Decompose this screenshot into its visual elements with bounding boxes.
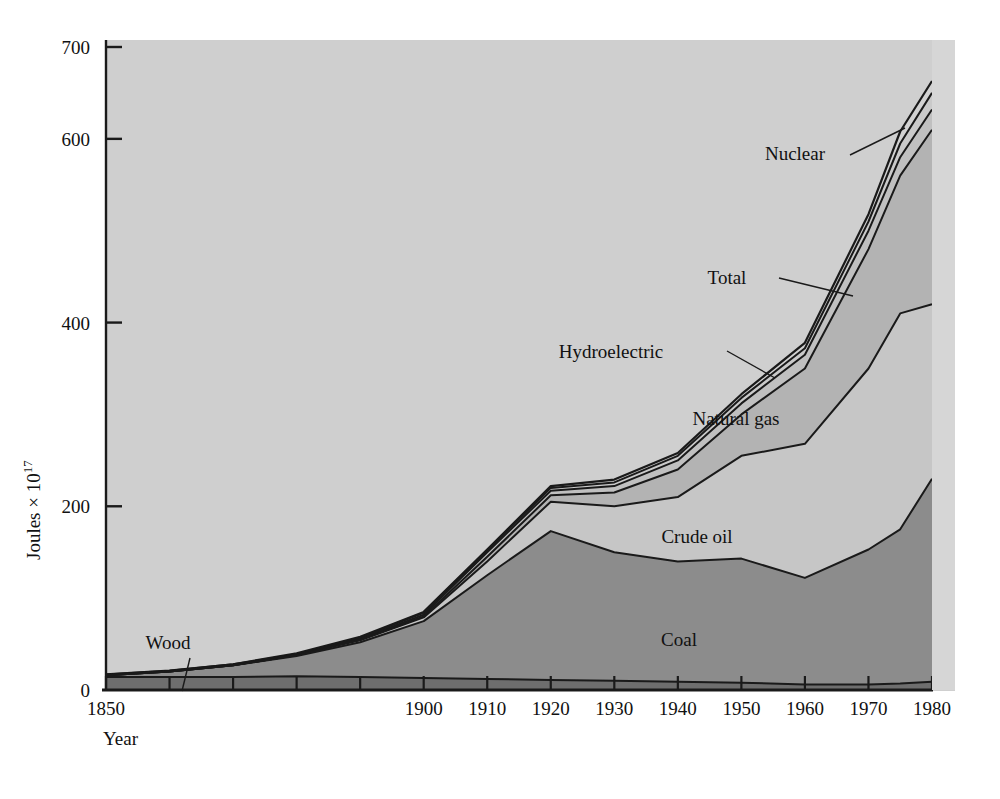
- x-tick-label-1960: 1960: [786, 698, 824, 719]
- x-tick-label-1900: 1900: [405, 698, 443, 719]
- energy-consumption-chart: 0200400600700 18501900191019201930194019…: [0, 0, 1000, 799]
- chart-canvas: 0200400600700 18501900191019201930194019…: [0, 0, 1000, 799]
- annotation-hydroelectric: Hydroelectric: [559, 341, 663, 362]
- x-tick-label-1920: 1920: [532, 698, 570, 719]
- y-axis-title-exponent: 17: [20, 460, 35, 474]
- x-tick-label-1930: 1930: [595, 698, 633, 719]
- annotation-wood: Wood: [146, 632, 191, 653]
- x-tick-label-1850: 1850: [87, 698, 125, 719]
- plot-right-margin: [932, 40, 955, 690]
- x-tick-label-1980: 1980: [913, 698, 951, 719]
- y-axis-title: Joules × 1017: [20, 460, 44, 560]
- annotation-nuclear: Nuclear: [765, 143, 826, 164]
- x-axis-title: Year: [103, 728, 139, 749]
- annotation-total: Total: [708, 267, 747, 288]
- annotation-crude-oil: Crude oil: [661, 526, 732, 547]
- y-axis-title-text: Joules × 10: [23, 473, 44, 560]
- annotation-natural-gas: Natural gas: [692, 408, 779, 429]
- x-tick-label-1950: 1950: [722, 698, 760, 719]
- y-tick-label-400: 400: [62, 313, 91, 334]
- x-tick-label-1940: 1940: [659, 698, 697, 719]
- x-tick-label-1970: 1970: [849, 698, 887, 719]
- y-tick-label-200: 200: [62, 496, 91, 517]
- y-tick-label-600: 600: [62, 129, 91, 150]
- annotation-coal: Coal: [661, 629, 697, 650]
- x-tick-label-1910: 1910: [468, 698, 506, 719]
- y-tick-label-700: 700: [62, 37, 91, 58]
